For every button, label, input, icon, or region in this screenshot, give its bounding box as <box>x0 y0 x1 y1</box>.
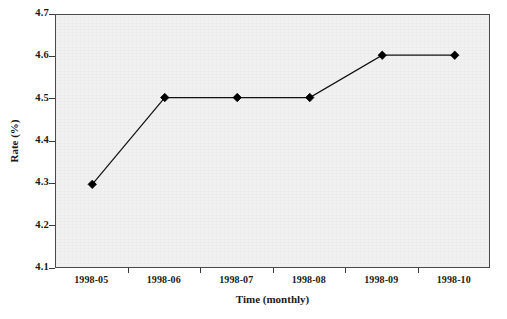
y-tick-label-text: 4.1 <box>35 261 55 272</box>
y-tick-label-text: 4.4 <box>35 134 55 145</box>
y-tick-label-text: 4.7 <box>35 7 55 18</box>
plot-area <box>55 14 490 268</box>
y-tick-label: 4.7 <box>0 7 55 21</box>
y-tick-label: 4.1 <box>0 261 55 275</box>
data-point-marker <box>451 51 459 59</box>
y-tick-label: 4.6 <box>0 49 55 63</box>
data-point-marker <box>378 51 386 59</box>
series-line <box>92 55 455 184</box>
y-tick-label: 4.2 <box>0 219 55 233</box>
line-series <box>56 15 491 269</box>
y-tick-label: 4.5 <box>0 92 55 106</box>
chart-figure: Rate (%) 4.14.24.34.44.54.64.7 1998-0519… <box>0 0 507 319</box>
y-tick-label-text: 4.5 <box>35 92 55 103</box>
data-point-marker <box>306 93 314 101</box>
y-tick-label: 4.4 <box>0 134 55 148</box>
x-axis-title: Time (monthly) <box>55 293 490 305</box>
x-tick-label: 1998-10 <box>409 274 499 285</box>
y-tick-label-text: 4.2 <box>35 219 55 230</box>
y-tick-label-text: 4.3 <box>35 176 55 187</box>
series-markers <box>88 51 459 189</box>
y-tick-label: 4.3 <box>0 176 55 190</box>
data-point-marker <box>233 93 241 101</box>
y-tick-label-text: 4.6 <box>35 49 55 60</box>
